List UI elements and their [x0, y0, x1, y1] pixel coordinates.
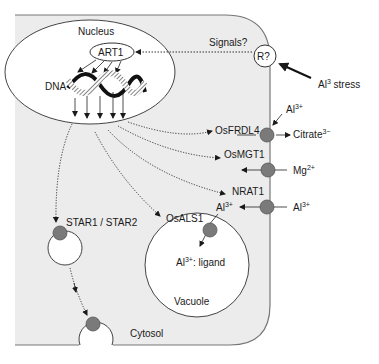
osmgt1-transporter: [261, 163, 275, 177]
osfrdl4-transporter: [260, 128, 274, 142]
cytosol-label: Cytosol: [130, 328, 163, 339]
vacuole-complex-label: Al3+: ligand: [176, 256, 225, 268]
mg-label: Mg2+: [293, 164, 315, 176]
nrat1-al-label: Al3+: [293, 201, 310, 213]
osals1-label: OsALS1: [166, 213, 204, 224]
membrane-gap: [79, 345, 113, 349]
osfrdl4-label: OsFRDL4: [215, 125, 260, 136]
nucleus-label: Nucleus: [78, 26, 114, 37]
al-tolerance-diagram: Nucleus ART1 DNA Signals? R? Al3 stress: [0, 0, 379, 364]
art1-label: ART1: [98, 47, 124, 58]
signals-label: Signals?: [209, 37, 248, 48]
osals1-transporter: [203, 223, 217, 237]
vacuole-label: Vacuole: [174, 296, 210, 307]
osfrdl4-al-label: Al3+: [286, 103, 303, 115]
star-transporter: [53, 226, 67, 240]
receptor-label: R?: [257, 51, 270, 62]
star-label: STAR1 / STAR2: [66, 217, 138, 228]
dna-label: DNA: [45, 81, 66, 92]
al-stress-label: Al3 stress: [318, 78, 360, 90]
al-in-arrow: [273, 114, 282, 125]
osmgt1-label: OsMGT1: [224, 149, 265, 160]
nrat1-label: NRAT1: [232, 186, 264, 197]
citrate-label: Citrate3−: [293, 128, 330, 140]
al-stress-arrow: [280, 64, 311, 78]
fused-transporter: [86, 317, 100, 331]
nrat1-transporter: [260, 200, 274, 214]
